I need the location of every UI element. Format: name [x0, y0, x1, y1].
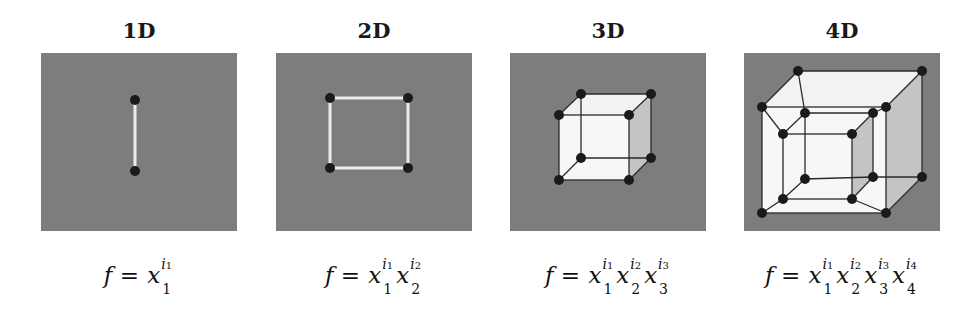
panel-3d — [510, 53, 706, 231]
panel-title-4d: 4D — [744, 18, 940, 43]
formula-term: xi22 — [616, 262, 643, 291]
formula-term: xi11 — [147, 262, 174, 291]
formula-equals: = — [781, 262, 800, 288]
formula-3d: f = xi11xi22xi33 — [493, 262, 723, 291]
formula-lhs: f — [545, 262, 554, 288]
panel-title-1d: 1D — [41, 18, 237, 43]
formula-term: xi44 — [892, 262, 919, 291]
line-segment-diagram — [41, 53, 237, 231]
panel-1d — [41, 53, 237, 231]
formula-term: xi22 — [836, 262, 863, 291]
formula-1d: f = xi11 — [24, 262, 254, 291]
formula-equals: = — [561, 262, 580, 288]
formula-term: xi11 — [809, 262, 836, 291]
square-diagram — [276, 53, 472, 231]
formula-term: xi22 — [396, 262, 423, 291]
tesseract-diagram — [744, 53, 940, 231]
formula-equals: = — [341, 262, 360, 288]
panel-title-3d: 3D — [510, 18, 706, 43]
formula-lhs: f — [104, 262, 113, 288]
formula-term: xi33 — [644, 262, 671, 291]
panel-title-2d: 2D — [276, 18, 472, 43]
formula-lhs: f — [765, 262, 774, 288]
formula-2d: f = xi11xi22 — [259, 262, 489, 291]
formula-term: xi11 — [588, 262, 615, 291]
formula-4d: f = xi11xi22xi33xi44 — [727, 262, 957, 291]
panel-4d — [744, 53, 940, 231]
panel-2d — [276, 53, 472, 231]
formula-lhs: f — [325, 262, 334, 288]
formula-term: xi33 — [864, 262, 891, 291]
formula-term: xi11 — [368, 262, 395, 291]
cube-diagram — [510, 53, 706, 231]
formula-equals: = — [120, 262, 139, 288]
